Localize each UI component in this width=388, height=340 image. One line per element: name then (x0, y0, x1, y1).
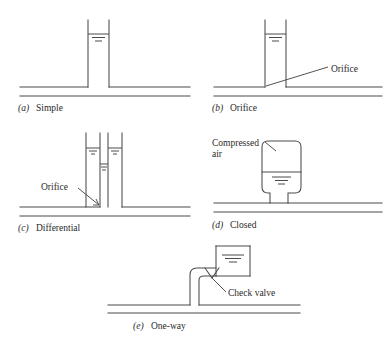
figure-text-layer: (a) Simple (b) Orifice (c) Differential … (0, 0, 388, 340)
caption-text-a: Simple (36, 103, 63, 113)
caption-marker-e: (e) (133, 321, 144, 332)
compressed-air-label-line1-d: Compressed (212, 138, 259, 148)
caption-text-e: One-way (151, 321, 186, 331)
compressed-air-label-line2-d: air (212, 149, 223, 159)
caption-marker-b: (b) (212, 103, 223, 114)
caption-marker-c: (c) (18, 223, 29, 234)
caption-marker-a: (a) (18, 103, 29, 114)
caption-text-b: Orifice (230, 103, 257, 113)
orifice-label-c: Orifice (41, 182, 68, 192)
caption-text-d: Closed (230, 220, 257, 230)
caption-text-c: Differential (36, 223, 80, 233)
caption-marker-d: (d) (212, 220, 223, 231)
orifice-label-b: Orifice (331, 64, 358, 74)
surge-tank-figure: (a) Simple (b) Orifice (c) Differential … (0, 0, 388, 340)
check-valve-label-e: Check valve (228, 288, 275, 298)
